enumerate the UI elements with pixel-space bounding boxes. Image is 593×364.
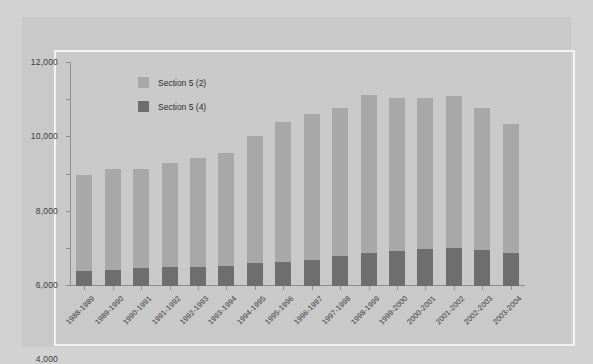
bar-stack [474, 108, 490, 286]
y-tick-label: 6,000 [36, 280, 58, 290]
y-tick-label: 10,000 [31, 131, 58, 141]
bar-segment-section-5-4 [162, 267, 178, 286]
bar-segment-section-5-2 [275, 122, 291, 262]
legend-label: Section 5 (2) [158, 78, 206, 88]
bar-segment-section-5-2 [76, 175, 92, 271]
bar-segment-section-5-4 [190, 267, 206, 287]
bar-stack [133, 169, 149, 286]
chart-legend: Section 5 (2) Section 5 (4) [138, 77, 206, 112]
bar-stack [247, 136, 263, 287]
bar-segment-section-5-2 [446, 96, 462, 247]
bar-stack [389, 98, 405, 286]
bar-segment-section-5-2 [332, 108, 348, 257]
bar-stack [304, 114, 320, 286]
bar-segment-section-5-2 [503, 124, 519, 252]
bar-segment-section-5-4 [503, 253, 519, 286]
bar-segment-section-5-4 [105, 270, 121, 286]
legend-swatch-icon [138, 101, 149, 112]
y-tick-label: 4,000 [36, 354, 58, 364]
bar-segment-section-5-4 [247, 263, 263, 286]
bar-stack [361, 95, 377, 286]
legend-item-section-5-2: Section 5 (2) [138, 77, 206, 88]
chart-screenshot: 02,0004,0006,0008,00010,00012,000 1988-1… [0, 0, 593, 364]
bar-stack [162, 163, 178, 286]
bar-segment-section-5-2 [105, 169, 121, 270]
bar-segment-section-5-2 [474, 108, 490, 250]
bar-stack [218, 153, 234, 286]
bar-stack [190, 158, 206, 286]
bar-segment-section-5-2 [190, 158, 206, 267]
bar-segment-section-5-4 [389, 251, 405, 286]
bar-segment-section-5-2 [162, 163, 178, 267]
bar-segment-section-5-4 [417, 249, 433, 286]
bar-segment-section-5-2 [247, 136, 263, 263]
bar-segment-section-5-4 [76, 271, 92, 286]
bar-stack [446, 96, 462, 286]
bar-segment-section-5-4 [133, 268, 149, 286]
legend-label: Section 5 (4) [158, 102, 206, 112]
y-tick-label: 12,000 [31, 57, 58, 67]
bar-stack [417, 98, 433, 286]
y-tick-label: 8,000 [36, 206, 58, 216]
bar-segment-section-5-2 [417, 98, 433, 249]
bar-segment-section-5-2 [133, 169, 149, 268]
bar-segment-section-5-2 [304, 114, 320, 260]
bar-segment-section-5-2 [389, 98, 405, 250]
bar-segment-section-5-4 [361, 253, 377, 286]
bar-stack [76, 175, 92, 286]
bar-stack [332, 108, 348, 286]
bar-segment-section-5-2 [218, 153, 234, 265]
bar-stack [503, 124, 519, 286]
bar-segment-section-5-4 [474, 250, 490, 286]
bar-segment-section-5-4 [218, 266, 234, 286]
bar-stack [105, 169, 121, 286]
bar-segment-section-5-4 [446, 248, 462, 286]
bar-stack [275, 122, 291, 286]
bar-segment-section-5-2 [361, 95, 377, 254]
bar-segment-section-5-4 [332, 256, 348, 286]
legend-swatch-icon [138, 77, 149, 88]
legend-item-section-5-4: Section 5 (4) [138, 101, 206, 112]
bar-segment-section-5-4 [304, 260, 320, 286]
bar-segment-section-5-4 [275, 262, 291, 286]
